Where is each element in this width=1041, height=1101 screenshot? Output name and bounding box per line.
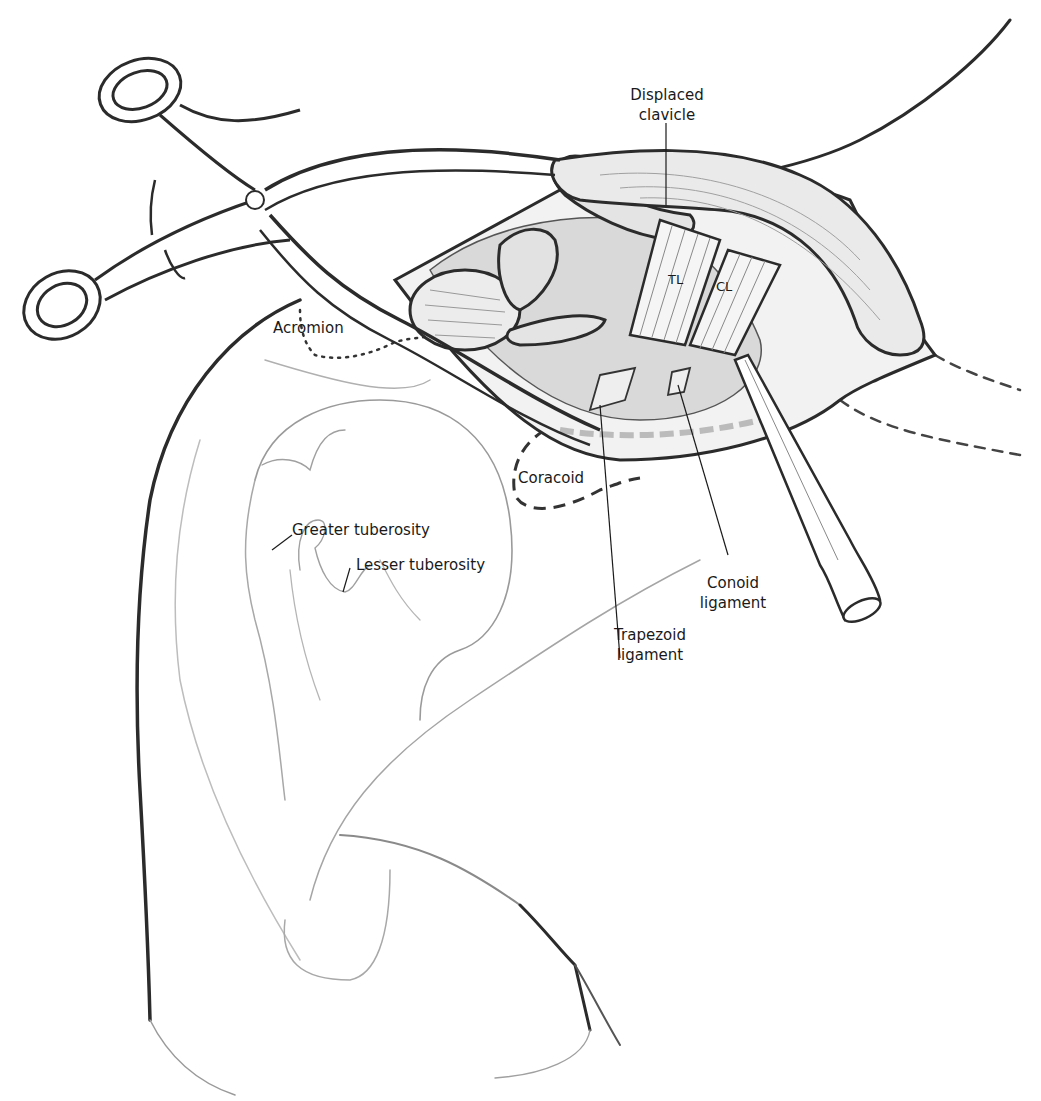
- label-trapezoid-ligament-line1: Trapezoid: [590, 625, 710, 645]
- label-trapezoid-ligament-line2: ligament: [590, 645, 710, 665]
- label-greater-tuberosity: Greater tuberosity: [292, 520, 430, 540]
- label-conoid-ligament-line2: ligament: [678, 593, 788, 613]
- surgical-wound: [395, 151, 935, 460]
- label-conoid-ligament-line1: Conoid: [678, 573, 788, 593]
- label-trapezoid-ligament: Trapezoid ligament: [590, 625, 710, 665]
- label-cl: CL: [716, 277, 732, 297]
- label-conoid-ligament: Conoid ligament: [678, 573, 788, 613]
- label-displaced-clavicle-line2: clavicle: [612, 105, 722, 125]
- label-tl: TL: [668, 270, 683, 290]
- shoulder-drawing: [0, 0, 1041, 1101]
- surgical-figure: Displaced clavicle TL CL Acromion Coraco…: [0, 0, 1041, 1101]
- label-coracoid: Coracoid: [518, 468, 584, 488]
- label-acromion: Acromion: [273, 318, 344, 338]
- label-displaced-clavicle: Displaced clavicle: [612, 85, 722, 125]
- label-lesser-tuberosity: Lesser tuberosity: [356, 555, 485, 575]
- label-displaced-clavicle-line1: Displaced: [612, 85, 722, 105]
